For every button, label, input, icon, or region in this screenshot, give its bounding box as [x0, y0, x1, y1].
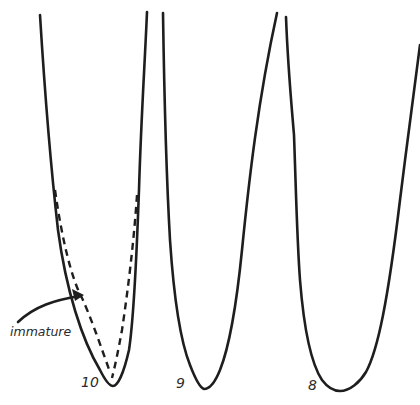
tooth-8-outline — [286, 17, 420, 391]
tooth-9-outline — [163, 13, 277, 389]
teeth-diagram — [0, 0, 420, 405]
tooth-9-label: 9 — [176, 375, 185, 391]
immature-label: immature — [10, 324, 71, 339]
tooth-10-label: 10 — [81, 374, 99, 390]
tooth-8-label: 8 — [308, 377, 317, 393]
